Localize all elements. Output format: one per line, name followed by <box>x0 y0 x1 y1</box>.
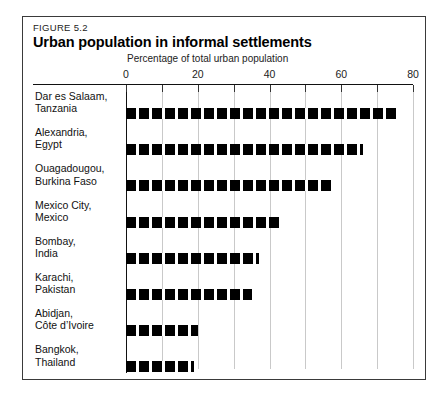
category-label-city: Dar es Salaam, <box>35 90 107 102</box>
x-tick-label: 60 <box>335 68 347 80</box>
category-label: Abidjan,Côte d’Ivoire <box>35 307 123 331</box>
category-label: Dar es Salaam,Tanzania <box>35 90 123 114</box>
bar-track <box>126 289 419 300</box>
x-tick-label: 80 <box>407 68 419 80</box>
figure-number: FIGURE 5.2 <box>33 22 88 33</box>
chart-row: Karachi,Pakistan <box>23 270 425 306</box>
chart-row: Dar es Salaam,Tanzania <box>23 89 425 125</box>
chart-row: Bombay,India <box>23 234 425 270</box>
figure-container: FIGURE 5.2 Urban population in informal … <box>22 16 426 380</box>
bar <box>126 217 280 228</box>
bar-track <box>126 180 419 191</box>
category-label-city: Bangkok, <box>35 343 79 355</box>
category-label: Karachi,Pakistan <box>35 271 123 295</box>
category-label-city: Alexandria, <box>35 126 88 138</box>
bar-track <box>126 325 419 336</box>
category-label-country: Tanzania <box>35 102 123 114</box>
category-label-country: Côte d’Ivoire <box>35 319 123 331</box>
category-label-country: Pakistan <box>35 283 123 295</box>
category-label: Bombay,India <box>35 235 123 259</box>
bar <box>126 289 252 300</box>
bar <box>126 180 334 191</box>
category-label: Bangkok,Thailand <box>35 343 123 367</box>
figure-title: Urban population in informal settlements <box>33 34 312 50</box>
bar <box>126 325 198 336</box>
bar-track <box>126 144 419 155</box>
x-axis-caption: Percentage of total urban population <box>127 53 288 64</box>
bar-track <box>126 361 419 372</box>
category-label-city: Ouagadougou, <box>35 162 104 174</box>
chart-row: Bangkok,Thailand <box>23 342 425 378</box>
category-label: Ouagadougou,Burkina Faso <box>35 162 123 186</box>
bar <box>126 361 194 372</box>
category-label-country: India <box>35 247 123 259</box>
chart-row: Mexico City,Mexico <box>23 198 425 234</box>
category-label-country: Thailand <box>35 356 123 368</box>
category-label-country: Egypt <box>35 138 123 150</box>
category-label-country: Burkina Faso <box>35 175 123 187</box>
bar <box>126 108 399 119</box>
category-label-city: Abidjan, <box>35 307 73 319</box>
bar <box>126 253 259 264</box>
category-label-country: Mexico <box>35 211 123 223</box>
category-label: Alexandria,Egypt <box>35 126 123 150</box>
x-axis-tick-labels: 020406080 <box>23 68 425 82</box>
chart-row: Ouagadougou,Burkina Faso <box>23 161 425 197</box>
x-tick-label: 40 <box>264 68 276 80</box>
x-tick-label: 0 <box>123 68 129 80</box>
bar-track <box>126 253 419 264</box>
category-label: Mexico City,Mexico <box>35 199 123 223</box>
category-label-city: Karachi, <box>35 271 74 283</box>
category-label-city: Bombay, <box>35 235 76 247</box>
chart-row: Abidjan,Côte d’Ivoire <box>23 306 425 342</box>
plot-area: Dar es Salaam,TanzaniaAlexandria,EgyptOu… <box>23 85 425 379</box>
category-label-city: Mexico City, <box>35 199 91 211</box>
x-tick-label: 20 <box>192 68 204 80</box>
chart-row: Alexandria,Egypt <box>23 125 425 161</box>
bar-track <box>126 217 419 228</box>
bar <box>126 144 363 155</box>
bar-track <box>126 108 419 119</box>
